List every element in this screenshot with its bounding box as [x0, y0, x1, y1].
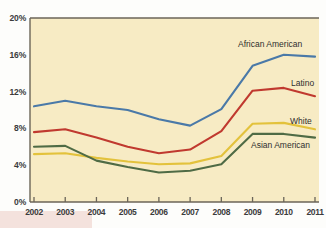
y-axis-tick-label: 8%: [2, 123, 26, 133]
x-axis-tick-label: 2005: [115, 207, 141, 217]
x-axis-tick-label: 2007: [177, 207, 203, 217]
series-label-latino: Latino: [291, 78, 314, 88]
x-axis-tick-label: 2009: [240, 207, 266, 217]
y-axis-tick-label: 0%: [2, 197, 26, 207]
chart-svg: [0, 0, 326, 228]
x-axis-tick-label: 2006: [146, 207, 172, 217]
chart-screenshot: 0%4%8%12%16%20% 200220032004200520062007…: [0, 0, 326, 228]
y-axis-tick-label: 20%: [2, 13, 26, 23]
y-axis-tick-label: 4%: [2, 160, 26, 170]
series-label-asian-american: Asian American: [251, 140, 310, 150]
x-axis-tick-label: 2004: [83, 207, 109, 217]
series-label-white: White: [290, 116, 312, 126]
series-label-african-american: African American: [238, 39, 302, 49]
x-axis-tick-label: 2008: [208, 207, 234, 217]
y-axis-tick-label: 16%: [2, 50, 26, 60]
x-axis-tick-label: 2011: [302, 207, 326, 217]
line-chart: 0%4%8%12%16%20% 200220032004200520062007…: [0, 0, 326, 228]
x-axis-tick-label: 2002: [21, 207, 47, 217]
x-axis-tick-label: 2010: [271, 207, 297, 217]
y-axis-tick-label: 12%: [2, 87, 26, 97]
x-axis-tick-label: 2003: [52, 207, 78, 217]
